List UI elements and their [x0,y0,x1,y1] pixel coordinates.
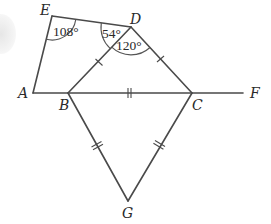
angle-label-BDC: 120° [116,38,142,53]
label-C: C [192,97,203,113]
label-B: B [58,97,69,113]
label-D: D [129,11,141,27]
angle-label-E: 108° [53,24,79,39]
label-G: G [122,205,133,221]
label-A: A [16,85,28,101]
segment-DC [131,27,192,93]
label-E: E [39,2,50,18]
geometry-diagram: E D A B C F G 108° 54° 120° [0,0,271,224]
segment-AE [33,16,52,93]
label-F: F [249,85,261,101]
